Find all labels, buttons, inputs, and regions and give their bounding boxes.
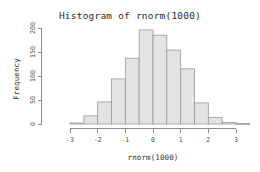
y-tick-label: 50	[29, 96, 37, 104]
x-axis-ticks: -3-2-10123	[66, 129, 238, 145]
y-axis-label: Frequency	[12, 58, 21, 100]
y-tick-label: 150	[29, 46, 37, 58]
y-tick-label: 100	[29, 70, 37, 82]
x-tick-label: 0	[151, 136, 155, 144]
histogram-bar	[222, 123, 236, 124]
histogram-bar	[70, 123, 84, 124]
y-axis-ticks: 050100150200	[29, 22, 41, 126]
histogram-bar	[153, 35, 167, 124]
histogram-bar	[84, 116, 98, 124]
x-tick-label: -1	[121, 136, 129, 144]
histogram-bar	[98, 102, 112, 124]
x-tick-label: 1	[179, 136, 183, 144]
histogram-bar	[167, 50, 181, 124]
histogram-bar	[112, 79, 126, 124]
histogram-bar	[139, 30, 153, 124]
histogram-bars	[70, 30, 250, 124]
x-tick-label: -2	[94, 136, 102, 144]
histogram-bar	[236, 124, 250, 125]
x-tick-label: 2	[206, 136, 210, 144]
y-tick-label: 200	[29, 22, 37, 34]
y-tick-label: 0	[29, 122, 37, 126]
histogram-bar	[125, 58, 139, 124]
histogram-plot: Histogram of rnorm(1000) 050100150200 -3…	[0, 0, 260, 172]
x-tick-label: -3	[66, 136, 74, 144]
histogram-bar	[208, 117, 222, 124]
x-tick-label: 3	[234, 136, 238, 144]
histogram-bar	[195, 103, 209, 124]
histogram-bar	[181, 69, 195, 124]
chart-canvas: Histogram of rnorm(1000) 050100150200 -3…	[0, 0, 260, 172]
chart-title: Histogram of rnorm(1000)	[59, 10, 201, 21]
x-axis-label: rnorm(1000)	[128, 153, 179, 162]
